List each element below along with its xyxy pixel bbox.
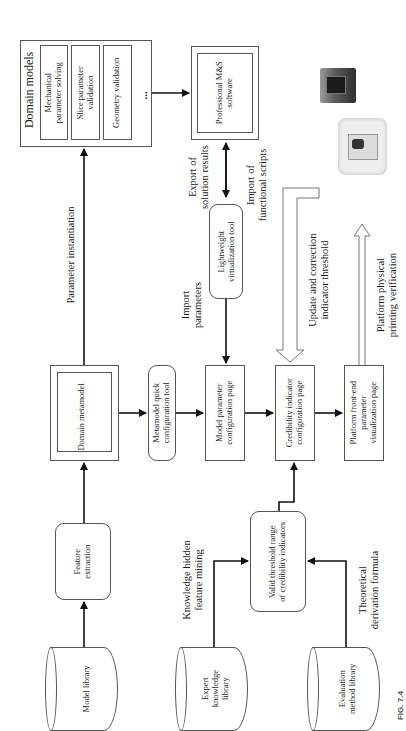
domain-models-title: Domain models (20, 40, 40, 140)
3d-printer-dark-image (320, 68, 356, 103)
parameter-instantiation-label: Parameter instantiation (62, 200, 80, 310)
printing-verification-label: Platform physical printing verification (370, 240, 404, 350)
expert-library-cap (175, 647, 187, 731)
theoretical-formula-label: Theoretical derivation formula (352, 540, 386, 640)
valid-threshold-label: Valid threshold range of credibility ind… (250, 511, 306, 612)
evaluation-library-cap (307, 647, 319, 731)
mechanical-solving-label: Mechanical parameter solving (40, 45, 68, 140)
update-threshold-label: Update and correction indicator threshol… (302, 225, 336, 335)
credibility-page-label: Credibility indicator configuration page (275, 365, 315, 461)
domain-metamodel-label: Domain metamodel (70, 372, 94, 452)
evaluation-library-label: Evaluation method library (320, 647, 376, 731)
geometry-validation-label: Geometry validation (103, 45, 132, 140)
import-parameters-label: Import parameters (178, 275, 206, 335)
model-param-page-label: Model parameter configuration page (205, 365, 245, 461)
ellipsis: ... (136, 85, 150, 105)
professional-software-label: Professional M&S software (197, 53, 253, 133)
model-library-label: Model library (58, 647, 114, 731)
import-scripts-label: Import of functional scripts (240, 140, 274, 230)
platform-page-label: Platform front-end parameter visualizati… (344, 365, 384, 461)
knowledge-mining-label: Knowledge hidden feature mining (176, 530, 210, 630)
lightweight-tool-label: Lightweight virtualization tool (209, 204, 243, 299)
metamodel-tool-label: Metamodel quick configuration tool (148, 365, 176, 461)
figure-caption: FIG. 7.4 (394, 680, 406, 731)
slice-validation-label: Slice parameter validation (71, 45, 100, 140)
expert-library-label: Expert knowledge library (188, 647, 244, 731)
model-library-cap (45, 647, 57, 731)
3d-printer-white-image (338, 118, 387, 175)
feature-extraction-label: Feature extraction (55, 523, 111, 600)
